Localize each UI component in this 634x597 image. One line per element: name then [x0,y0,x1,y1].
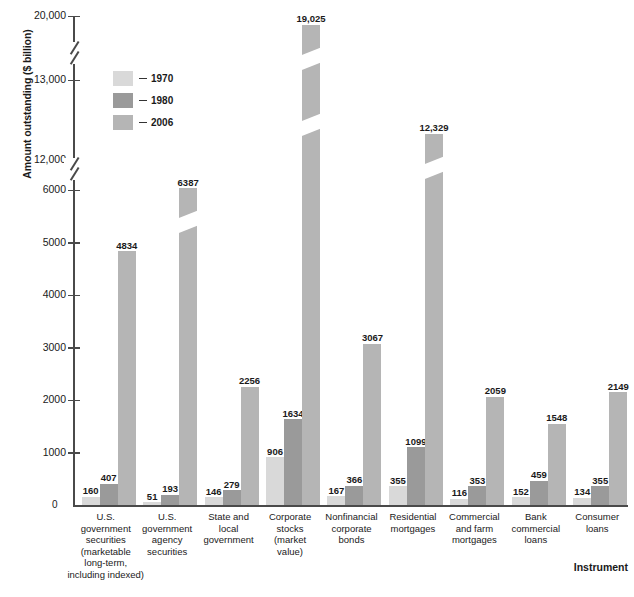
bar-value-label: 51 [147,492,158,502]
bar: 1548 [548,424,566,505]
bar-fill [512,497,530,505]
bar-value-label: 1099 [405,437,426,447]
category-label: Consumerloans [558,511,634,534]
bar-group: 1462792256 [198,10,259,506]
bar: 146 [205,497,223,505]
bar: 167 [327,496,345,505]
bar-fill [530,481,548,505]
bar-chart: Amount outstanding ($ billion) 100020003… [0,0,634,597]
bar-fill [118,251,136,505]
bar: 2149 [609,392,627,505]
y-tick-label: 5000 [43,237,66,248]
y-axis-title: Amount outstanding ($ billion) [21,4,33,204]
bar-group: 511936387 [136,10,197,506]
bar-fill [179,188,197,505]
bar-value-label: 459 [531,470,547,480]
bar-value-label: 279 [224,480,240,490]
bar: 1099 [407,447,425,505]
bar-fill [302,25,320,505]
bar-value-label: 2256 [239,376,260,386]
bar-value-label: 355 [592,476,608,486]
bar: 4834 [118,251,136,505]
bar: 193 [161,495,179,505]
bar: 2059 [486,397,504,505]
bar-group: 1163532059 [444,10,505,506]
bar-fill [345,486,363,505]
category-label-line: bonds [313,534,391,546]
bar-value-label: 4834 [116,241,137,251]
bar-fill [425,134,443,505]
category-label-line: Consumer [558,511,634,523]
bar-fill [486,397,504,505]
bar-fill [450,499,468,505]
category-label-line: securities [127,546,206,558]
bar-value-label: 2149 [608,382,629,392]
bar-value-label: 3067 [362,333,383,343]
x-axis-category-labels: U.S.governmentsecurities(marketablelong-… [75,511,628,597]
bar-group: 1524591548 [505,10,566,506]
bar-value-label: 193 [162,484,178,494]
plot-area: 16040748345119363871462792256906163419,0… [75,10,628,506]
y-tick-label: 12,000 [34,154,66,165]
bar-group: 1673663067 [321,10,382,506]
bar: 19,025 [302,25,320,505]
bar-value-label: 6387 [178,178,199,188]
bar-group: 1604074834 [75,10,136,506]
bar-value-label: 353 [469,476,485,486]
bar: 355 [389,486,407,505]
bar: 116 [450,499,468,505]
bar: 51 [143,502,161,505]
bar-fill [100,484,118,505]
y-tick-label: 13,000 [34,74,66,85]
bar-fill [223,490,241,505]
bar-value-label: 2059 [485,386,506,396]
bar-value-label: 366 [347,475,363,485]
bar-fill [407,447,425,505]
bar-value-label: 407 [101,473,117,483]
bar: 12,329 [425,134,443,505]
bar-fill [548,424,566,505]
bar: 355 [591,486,609,505]
bar-group: 906163419,025 [259,10,320,506]
bar-value-label: 1548 [546,413,567,423]
bar-fill [284,419,302,505]
x-axis-title: Instrument [574,561,628,573]
bar-value-label: 146 [206,487,222,497]
bar: 134 [573,498,591,505]
bar-value-label: 160 [83,486,99,496]
bar-fill [591,486,609,505]
category-label-line: long-term, [56,557,156,569]
bar-fill [205,497,223,505]
bar-value-label: 167 [329,486,345,496]
bar: 3067 [363,344,381,505]
bar-fill [327,496,345,505]
bar: 160 [82,497,100,505]
y-tick-label: 6000 [43,184,66,195]
bar-fill [161,495,179,505]
bar: 6387 [179,188,197,505]
bar: 366 [345,486,363,505]
bar: 279 [223,490,241,505]
category-label-line: loans [496,534,575,546]
bar: 152 [512,497,530,505]
bar: 407 [100,484,118,505]
y-tick-label: 1000 [43,447,66,458]
bar-group: 355109912,329 [382,10,443,506]
bar-fill [573,498,591,505]
bar-value-label: 152 [513,487,529,497]
bar-value-label: 1634 [282,409,303,419]
bar: 2256 [241,387,259,505]
bar-value-label: 355 [390,476,406,486]
bar-value-label: 134 [574,487,590,497]
bar-fill [468,486,486,505]
bar: 1634 [284,419,302,505]
bar-value-label: 906 [267,447,283,457]
bar: 459 [530,481,548,505]
bar-fill [363,344,381,505]
bar-fill [609,392,627,505]
y-tick-label: 4000 [43,289,66,300]
bar-value-label: 116 [452,488,467,498]
bar-fill [143,502,161,505]
y-tick-label: 3000 [43,342,66,353]
y-tick-label: 20,000 [34,10,66,21]
